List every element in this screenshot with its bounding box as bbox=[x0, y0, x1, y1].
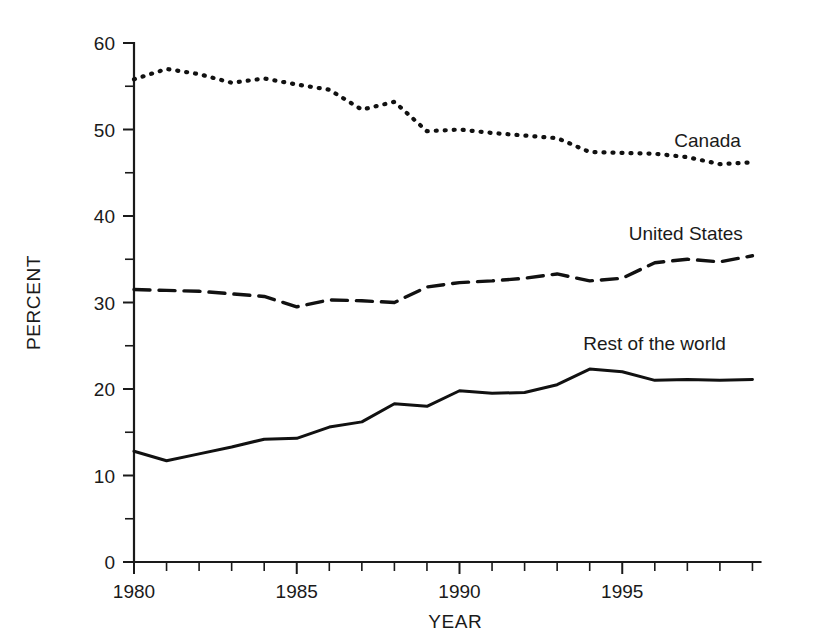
series-line-canada bbox=[134, 69, 752, 164]
x-tick-label: 1995 bbox=[601, 581, 643, 602]
x-axis-title: YEAR bbox=[428, 611, 482, 632]
line-chart-svg: 0102030405060PERCENT1980198519901995YEAR… bbox=[0, 0, 839, 644]
y-tick-label: 0 bbox=[104, 552, 115, 573]
y-tick-label: 10 bbox=[94, 466, 115, 487]
y-tick-label: 60 bbox=[94, 33, 115, 54]
x-tick-label: 1985 bbox=[276, 581, 318, 602]
y-tick-label: 20 bbox=[94, 379, 115, 400]
x-tick-label: 1990 bbox=[438, 581, 480, 602]
y-tick-label: 50 bbox=[94, 120, 115, 141]
series-line-rest-of-the-world bbox=[134, 369, 752, 461]
series-line-united-states bbox=[134, 256, 752, 307]
series-label-united-states: United States bbox=[629, 223, 743, 244]
chart-figure: 0102030405060PERCENT1980198519901995YEAR… bbox=[0, 0, 839, 644]
series-label-rest-of-the-world: Rest of the world bbox=[583, 333, 726, 354]
y-axis-title: PERCENT bbox=[23, 255, 44, 350]
x-tick-label: 1980 bbox=[113, 581, 155, 602]
y-tick-label: 40 bbox=[94, 206, 115, 227]
series-label-canada: Canada bbox=[674, 130, 741, 151]
y-tick-label: 30 bbox=[94, 293, 115, 314]
